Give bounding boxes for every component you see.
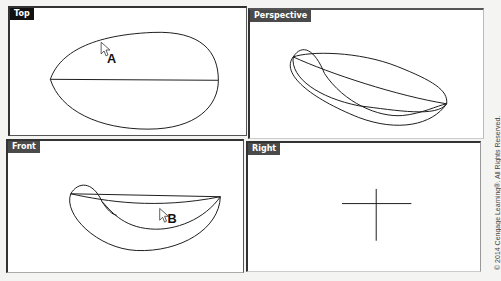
callout-a: A xyxy=(107,52,116,66)
perspective-view-canvas[interactable] xyxy=(250,10,483,138)
profile-curve-a[interactable] xyxy=(293,50,446,116)
top-view-canvas[interactable]: A xyxy=(10,8,246,135)
right-view-canvas[interactable] xyxy=(248,143,480,271)
front-view-canvas[interactable]: B xyxy=(8,141,243,272)
egg-outline-curve[interactable] xyxy=(293,53,447,112)
bottom-hull-curve[interactable] xyxy=(70,194,221,251)
top-edge-curve[interactable] xyxy=(71,194,221,197)
centerline-curve[interactable] xyxy=(50,79,218,80)
profile-curve-b[interactable] xyxy=(290,57,446,125)
viewport-top[interactable]: Top A xyxy=(8,6,247,136)
copyright-notice: © 2014 Cengage Learning®. All Rights Res… xyxy=(494,116,501,270)
viewport-front[interactable]: Front B xyxy=(6,139,244,273)
callout-b: B xyxy=(168,212,177,226)
viewport-perspective[interactable]: Perspective xyxy=(248,8,484,139)
sagging-curve[interactable] xyxy=(71,194,221,229)
viewport-right[interactable]: Right xyxy=(246,141,481,272)
egg-outline-curve[interactable] xyxy=(50,32,218,129)
